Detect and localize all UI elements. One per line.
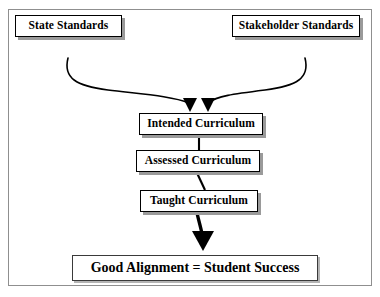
node-outcome: Good Alignment = Student Success (72, 255, 318, 281)
node-assessed-curriculum-label: Assessed Curriculum (145, 155, 251, 167)
node-state-standards-label: State Standards (29, 20, 109, 32)
node-outcome-label: Good Alignment = Student Success (91, 261, 300, 275)
node-state-standards: State Standards (15, 15, 122, 37)
node-intended-curriculum: Intended Curriculum (139, 113, 263, 135)
diagram-root: State Standards Stakeholder Standards In… (0, 0, 380, 297)
node-intended-curriculum-label: Intended Curriculum (147, 118, 255, 130)
node-stakeholder-standards-label: Stakeholder Standards (239, 20, 354, 32)
node-taught-curriculum-label: Taught Curriculum (150, 195, 248, 207)
node-taught-curriculum: Taught Curriculum (140, 190, 258, 212)
diagram-frame (8, 9, 372, 286)
node-stakeholder-standards: Stakeholder Standards (232, 15, 360, 37)
node-assessed-curriculum: Assessed Curriculum (136, 150, 260, 172)
